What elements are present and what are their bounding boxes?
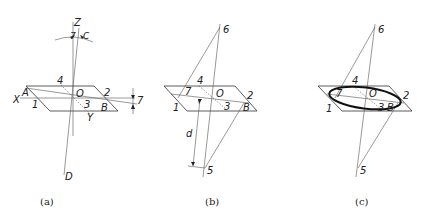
label-gamma-top: 7 xyxy=(70,31,76,41)
label-x: X xyxy=(12,94,21,105)
label-c: C xyxy=(83,31,90,41)
label-3: 3 xyxy=(224,101,230,112)
caption-c: (c) xyxy=(355,196,369,207)
label-y: Y xyxy=(87,112,94,123)
label-b: B xyxy=(387,102,394,113)
label-2: 2 xyxy=(247,90,253,101)
axis-6-5 xyxy=(356,24,375,177)
label-d: D xyxy=(65,171,73,182)
axis-6-5 xyxy=(203,24,220,177)
label-1: 1 xyxy=(173,102,179,113)
label-3: 3 xyxy=(378,102,384,113)
label-7: 7 xyxy=(185,86,192,97)
label-6: 6 xyxy=(223,24,229,35)
label-4: 4 xyxy=(197,75,203,86)
label-2: 2 xyxy=(104,87,110,98)
label-z: Z xyxy=(73,17,82,28)
label-a: A xyxy=(21,87,29,98)
cd-axis-line xyxy=(64,28,79,175)
axis-1-2 xyxy=(171,94,249,103)
label-4: 4 xyxy=(352,75,358,86)
label-1: 1 xyxy=(32,99,38,110)
label-7: 7 xyxy=(336,88,343,99)
label-4: 4 xyxy=(57,75,63,86)
label-b: B xyxy=(243,102,250,113)
label-o: O xyxy=(369,88,377,99)
arrow-icon xyxy=(131,104,135,109)
line-5-b xyxy=(205,103,244,168)
label-o: O xyxy=(216,88,224,99)
figure-canvas: Z 7 C 4 O 2 7 A X 1 3 B Y D (a) 6 4 7 xyxy=(0,0,423,212)
panel-c: 6 4 7 O 2 1 3 B 5 (c) xyxy=(318,24,412,207)
label-gamma-right: 7 xyxy=(137,95,144,106)
dimension-d-line xyxy=(193,99,200,166)
label-o: O xyxy=(76,88,84,99)
label-5: 5 xyxy=(207,165,213,176)
caption-a: (a) xyxy=(40,196,54,207)
caption-b: (b) xyxy=(205,196,219,207)
panel-a: Z 7 C 4 O 2 7 A X 1 3 B Y D (a) xyxy=(12,17,144,207)
dimension-extension xyxy=(188,166,205,168)
arrow-icon xyxy=(131,95,135,99)
label-6: 6 xyxy=(378,24,384,35)
arrow-icon xyxy=(198,99,202,104)
label-b: B xyxy=(101,102,108,113)
label-5: 5 xyxy=(360,165,366,176)
panel-b: 6 4 7 O 2 1 3 B d 5 (b) xyxy=(164,24,257,207)
label-1: 1 xyxy=(326,103,332,114)
label-dimension-d: d xyxy=(186,128,193,139)
label-3: 3 xyxy=(84,99,90,110)
arrow-icon xyxy=(191,162,195,166)
label-2: 2 xyxy=(403,90,409,101)
